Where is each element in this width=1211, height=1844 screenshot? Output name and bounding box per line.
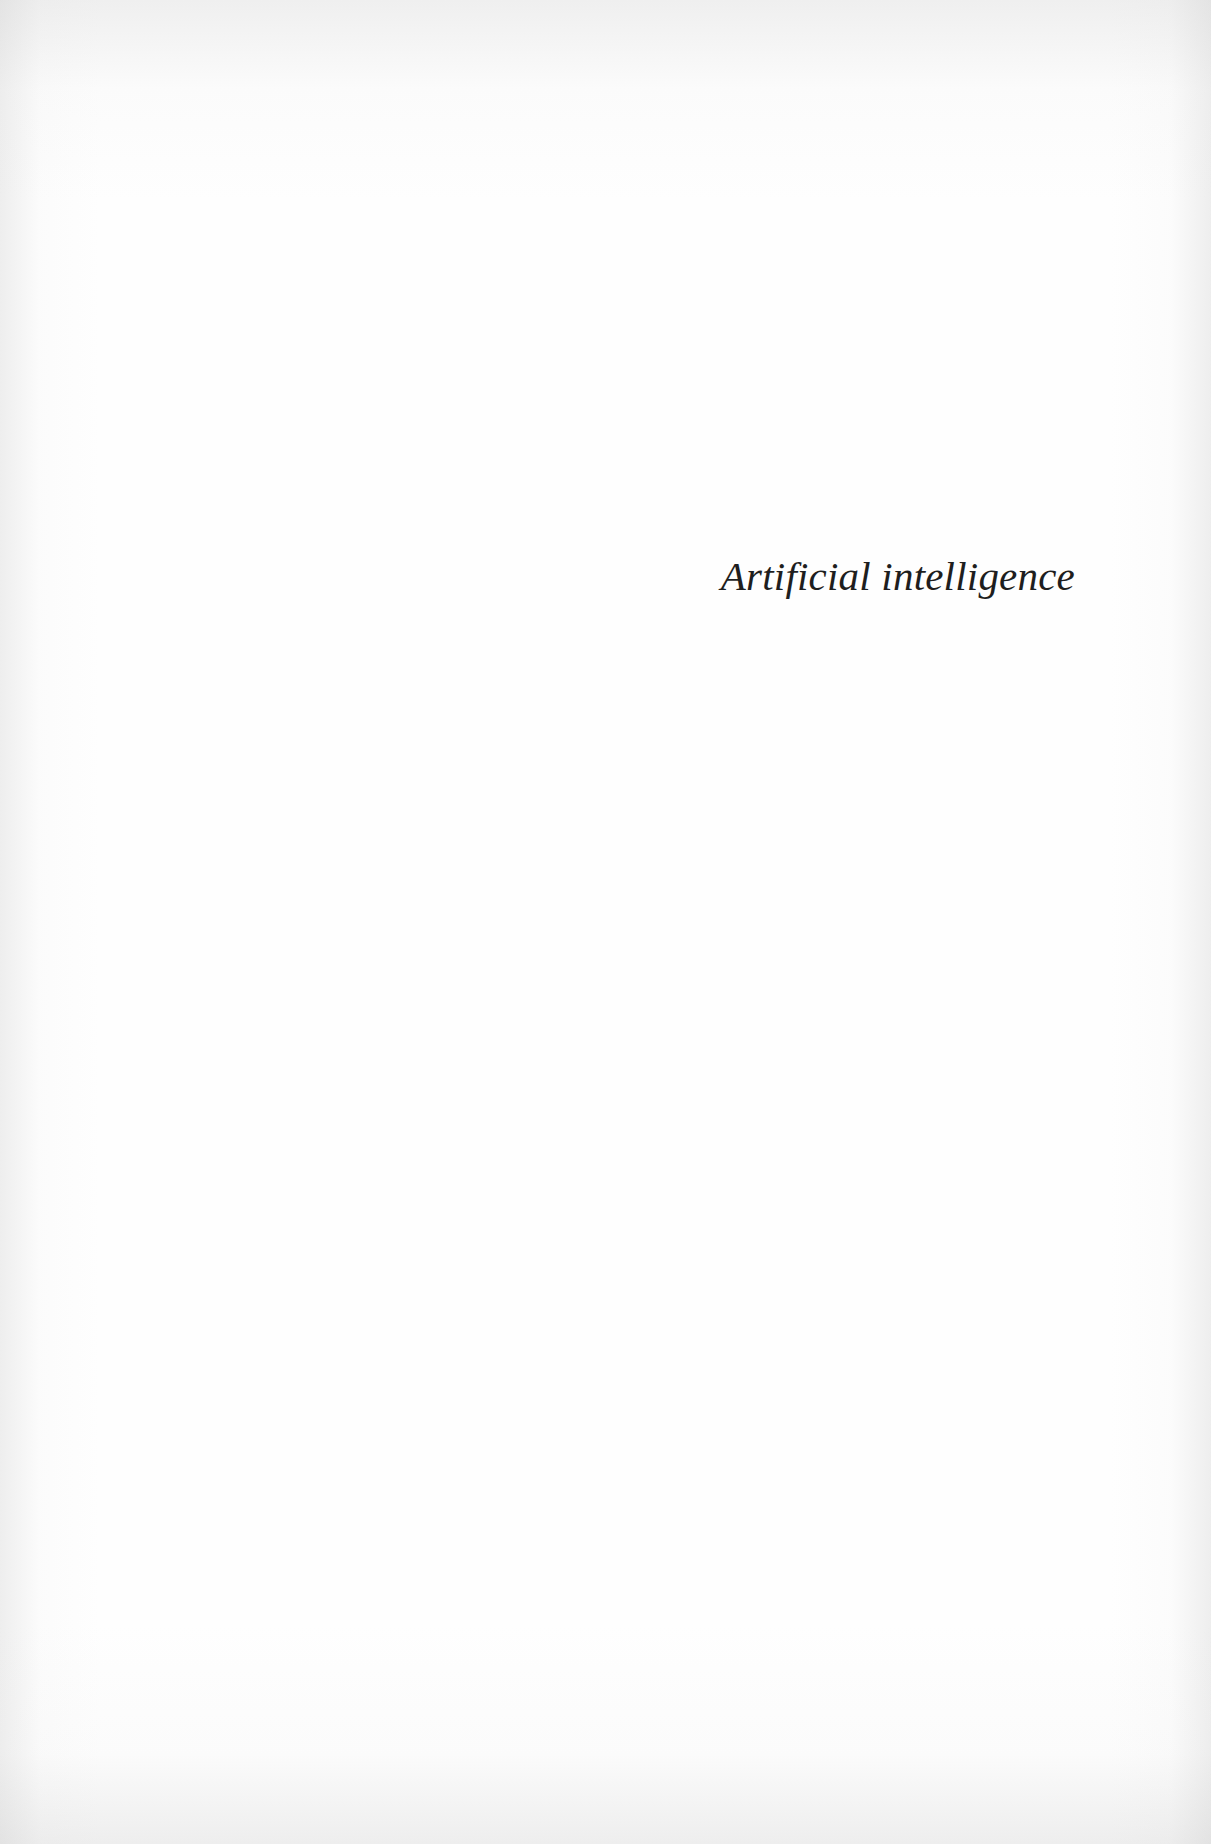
half-title: Artificial intelligence — [721, 556, 1075, 597]
paper-scan-shading — [0, 0, 1211, 1844]
book-page: Artificial intelligence — [0, 0, 1211, 1844]
